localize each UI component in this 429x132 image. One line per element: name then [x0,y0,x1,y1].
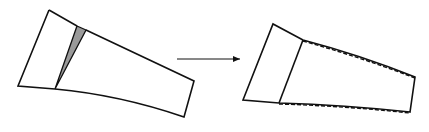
transformed-strip [243,24,415,113]
original-strip [18,10,194,117]
wedge-gap [55,26,86,89]
strip-outline [18,10,194,117]
seam-line [279,40,303,103]
dashed-bottom-edge [279,104,410,113]
top-edge-segment [49,10,77,26]
transformation-diagram [0,0,429,132]
dashed-top-edge [303,41,415,78]
